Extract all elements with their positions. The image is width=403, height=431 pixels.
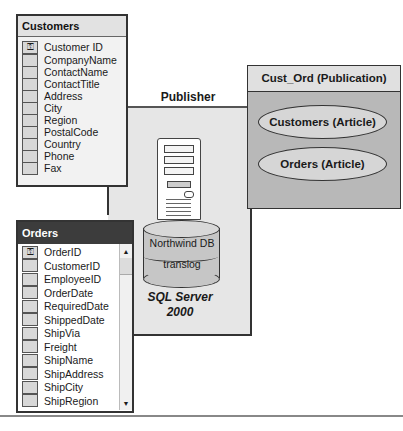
- publication-title: Cust_Ord (Publication): [248, 66, 400, 92]
- column-name: Country: [44, 138, 81, 150]
- orders-table-title: Orders: [18, 222, 132, 244]
- database-cylinder-icon: Northwind DB translog: [143, 220, 220, 286]
- column-name: CompanyName: [44, 54, 117, 66]
- column-name: ShippedDate: [44, 314, 105, 326]
- column-name: OrderID: [44, 246, 81, 258]
- column-row[interactable]: CustomerID: [18, 259, 132, 273]
- column-name: CustomerID: [44, 260, 100, 272]
- article-orders: Orders (Article): [258, 147, 387, 181]
- row-selector: [22, 394, 38, 407]
- server-name-line2: 2000: [130, 305, 230, 320]
- column-row[interactable]: ShippedDate: [18, 313, 132, 327]
- column-row[interactable]: ShipVia: [18, 327, 132, 341]
- publication-box: Cust_Ord (Publication) Customers (Articl…: [247, 65, 401, 209]
- row-selector: [22, 273, 38, 286]
- column-name: ShipName: [44, 354, 93, 366]
- column-name: ShipRegion: [44, 395, 98, 407]
- server-icon: [157, 138, 201, 220]
- column-row[interactable]: RequiredDate: [18, 300, 132, 314]
- column-name: ShipVia: [44, 327, 80, 339]
- key-icon: ⚿: [22, 41, 38, 54]
- translog-label: translog: [143, 258, 221, 270]
- vent: [166, 203, 191, 204]
- column-row[interactable]: EmployeeID: [18, 273, 132, 287]
- publisher-label: Publisher: [148, 90, 228, 104]
- article-customers: Customers (Article): [258, 105, 387, 139]
- customers-columns: ⚿Customer ID CompanyName ContactName Con…: [18, 37, 126, 174]
- column-name: City: [44, 102, 62, 114]
- drive-bay: [164, 156, 194, 164]
- row-selector: [22, 381, 38, 394]
- column-row[interactable]: City: [18, 102, 126, 114]
- vent: [166, 199, 191, 200]
- customers-table-title: Customers: [18, 16, 126, 37]
- column-name: OrderDate: [44, 287, 93, 299]
- row-selector: [22, 354, 38, 367]
- scroll-thumb[interactable]: [120, 258, 132, 275]
- row-selector: [22, 313, 38, 326]
- column-row[interactable]: Fax: [18, 162, 126, 174]
- column-row[interactable]: Phone: [18, 150, 126, 162]
- scroll-up-arrow-icon[interactable]: ▲: [120, 246, 132, 258]
- cylinder-bottom: [143, 270, 220, 288]
- column-name: RequiredDate: [44, 300, 109, 312]
- column-name: ShipAddress: [44, 368, 104, 380]
- column-name: ContactName: [44, 66, 108, 78]
- vent: [166, 215, 191, 216]
- row-selector: [22, 340, 38, 353]
- column-name: PostalCode: [44, 126, 98, 138]
- power-button: [184, 191, 194, 198]
- column-name: Address: [44, 90, 83, 102]
- row-selector: [22, 162, 38, 175]
- column-name: ContactTitle: [44, 78, 100, 90]
- connector-line: [107, 185, 109, 215]
- disk-slot: [167, 181, 191, 188]
- column-row[interactable]: ContactTitle: [18, 78, 126, 90]
- server-name-line1: SQL Server: [130, 290, 230, 305]
- row-selector: [22, 286, 38, 299]
- column-row[interactable]: Address: [18, 90, 126, 102]
- column-row[interactable]: CompanyName: [18, 54, 126, 66]
- column-row[interactable]: Region: [18, 114, 126, 126]
- column-row[interactable]: ⚿OrderID: [18, 245, 132, 259]
- row-selector: [22, 327, 38, 340]
- database-label: Northwind DB: [143, 237, 221, 249]
- column-name: Freight: [44, 341, 77, 353]
- key-icon: ⚿: [22, 246, 38, 259]
- orders-table: Orders ⚿OrderID CustomerID EmployeeID Or…: [16, 220, 134, 413]
- column-row[interactable]: ShipRegion: [18, 394, 132, 408]
- column-name: Phone: [44, 150, 74, 162]
- vent: [166, 207, 191, 208]
- column-row[interactable]: ShipName: [18, 354, 132, 368]
- drive-bay: [164, 167, 194, 175]
- bottom-divider: [0, 415, 403, 417]
- column-name: Fax: [44, 162, 62, 174]
- column-row[interactable]: OrderDate: [18, 286, 132, 300]
- orders-scrollbar[interactable]: ▲ ▼: [119, 244, 132, 410]
- column-name: Customer ID: [44, 41, 103, 53]
- row-selector: [22, 367, 38, 380]
- column-row[interactable]: ⚿Customer ID: [18, 40, 126, 54]
- orders-columns: ⚿OrderID CustomerID EmployeeID OrderDate…: [18, 244, 132, 410]
- scroll-down-arrow-icon[interactable]: ▼: [120, 398, 132, 410]
- customers-table: Customers ⚿Customer ID CompanyName Conta…: [16, 14, 128, 187]
- cylinder-top: [143, 220, 220, 238]
- column-row[interactable]: ShipAddress: [18, 367, 132, 381]
- column-row[interactable]: Country: [18, 138, 126, 150]
- row-selector: [22, 259, 38, 272]
- vent: [166, 211, 191, 212]
- column-row[interactable]: Freight: [18, 340, 132, 354]
- drive-bay: [164, 145, 194, 153]
- column-row[interactable]: ContactName: [18, 66, 126, 78]
- column-name: EmployeeID: [44, 273, 101, 285]
- column-name: ShipCity: [44, 381, 83, 393]
- column-row[interactable]: PostalCode: [18, 126, 126, 138]
- column-row[interactable]: ShipCity: [18, 381, 132, 395]
- column-name: Region: [44, 114, 77, 126]
- row-selector: [22, 300, 38, 313]
- server-name: SQL Server 2000: [130, 290, 230, 320]
